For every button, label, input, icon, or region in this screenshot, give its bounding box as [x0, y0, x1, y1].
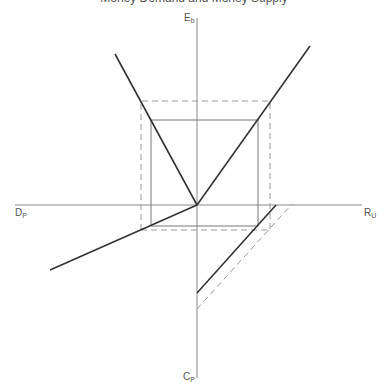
diagram [0, 0, 388, 392]
label-top: Eb [184, 12, 195, 24]
v-right-arm [197, 46, 310, 205]
lower-right-dashed [197, 204, 292, 309]
label-left: DP [15, 207, 27, 219]
lower-right-line [197, 205, 276, 293]
lower-left-line [50, 205, 197, 270]
label-bottom: CP [183, 371, 195, 383]
v-left-arm [115, 54, 197, 205]
inner-rectangle [151, 120, 258, 226]
label-right: RU [364, 207, 376, 219]
